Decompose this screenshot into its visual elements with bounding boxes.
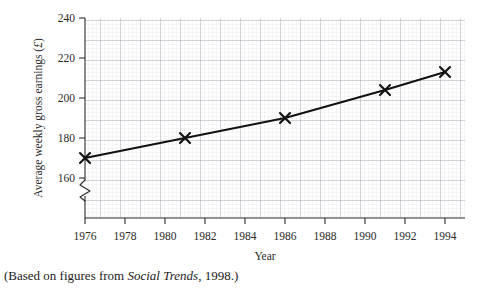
y-axis-title-close: )	[32, 38, 45, 42]
x-tick-label: 1986	[274, 230, 297, 242]
x-axis-ticks	[85, 218, 445, 224]
x-tick-label: 1978	[114, 230, 137, 242]
svg-text:Average weekly gross earnings: Average weekly gross earnings (£)	[32, 38, 45, 198]
x-tick-label: 1984	[234, 230, 257, 242]
chart-figure: 240 220 200 180 160 1976 1978 1980 1982 …	[0, 0, 494, 294]
y-tick-label: 240	[58, 12, 76, 24]
y-axis-tick-labels: 240 220 200 180 160	[58, 12, 76, 184]
y-tick-label: 200	[58, 92, 76, 104]
x-tick-label: 1990	[354, 230, 377, 242]
y-axis-title: Average weekly gross earnings (£)	[32, 38, 45, 198]
y-axis-title-main: Average weekly gross earnings (	[32, 48, 45, 198]
caption-suffix: , 1998.)	[198, 268, 238, 283]
x-tick-label: 1976	[74, 230, 97, 242]
x-tick-label: 1988	[314, 230, 337, 242]
x-tick-label: 1992	[394, 230, 417, 242]
y-tick-label: 220	[58, 52, 76, 64]
chart-svg: 240 220 200 180 160 1976 1978 1980 1982 …	[0, 0, 494, 294]
figure-caption: (Based on figures from Social Trends, 19…	[4, 268, 238, 284]
y-tick-label: 160	[58, 172, 76, 184]
x-tick-label: 1980	[154, 230, 177, 242]
x-axis-title: Year	[254, 250, 275, 262]
plot-grid	[85, 18, 465, 218]
caption-source: Social Trends	[127, 268, 198, 283]
x-axis-tick-labels: 1976 1978 1980 1982 1984 1986 1988 1990 …	[74, 230, 457, 242]
x-tick-label: 1982	[194, 230, 217, 242]
caption-prefix: (Based on figures from	[4, 268, 127, 283]
x-tick-label: 1994	[434, 230, 457, 242]
y-tick-label: 180	[58, 132, 76, 144]
